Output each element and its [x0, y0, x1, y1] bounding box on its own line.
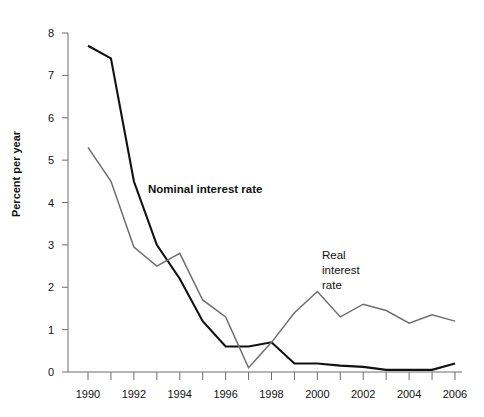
y-tick-label: 2: [48, 281, 54, 293]
x-tick-label: 2000: [305, 388, 329, 400]
x-tick-label: 2002: [351, 388, 375, 400]
x-tick-label: 1998: [259, 388, 283, 400]
x-tick-label: 1992: [122, 388, 146, 400]
y-tick-label: 1: [48, 324, 54, 336]
series-lines: [88, 46, 455, 370]
y-tick-label: 4: [48, 197, 54, 209]
x-tick-label: 2004: [397, 388, 421, 400]
y-axis-ticks: 012345678: [48, 27, 68, 378]
y-axis-title: Percent per year: [10, 114, 22, 234]
line-chart-plot: 012345678 199019921994199619982000200220…: [0, 0, 484, 417]
x-tick-label: 1994: [168, 388, 192, 400]
nominal-series-label: Nominal interest rate: [148, 182, 262, 197]
x-axis-ticks: 199019921994199619982000200220042006: [76, 372, 467, 400]
series-line-real-interest-rate: [88, 147, 455, 367]
x-tick-label: 1996: [213, 388, 237, 400]
y-tick-label: 5: [48, 154, 54, 166]
chart-figure: Percent per year 012345678 1990199219941…: [0, 0, 484, 417]
y-tick-label: 0: [48, 366, 54, 378]
series-line-nominal-interest-rate: [88, 46, 455, 370]
y-tick-label: 7: [48, 69, 54, 81]
y-tick-label: 8: [48, 27, 54, 39]
x-tick-label: 1990: [76, 388, 100, 400]
y-tick-label: 3: [48, 239, 54, 251]
y-tick-label: 6: [48, 112, 54, 124]
x-tick-label: 2006: [443, 388, 467, 400]
real-series-label: Real interest rate: [322, 248, 360, 293]
